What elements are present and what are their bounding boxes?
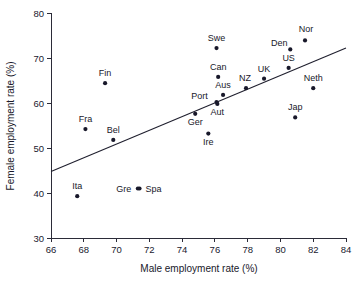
data-point: Aus	[215, 80, 231, 97]
data-point: Den	[271, 38, 292, 51]
point-label: Swe	[208, 33, 226, 43]
data-point: Fra	[79, 114, 93, 131]
point-marker	[75, 194, 79, 198]
point-marker	[111, 138, 115, 142]
y-tick-label: 60	[33, 98, 44, 109]
point-label: UK	[258, 64, 271, 74]
point-marker	[193, 112, 197, 116]
x-tick-label: 76	[210, 244, 221, 255]
point-label: Den	[271, 38, 288, 48]
data-point: Jap	[288, 102, 303, 119]
y-axis-title: Female employment rate (%)	[5, 62, 16, 191]
y-tick-label: 40	[33, 188, 44, 199]
point-marker	[103, 81, 107, 85]
x-axis-ticks: 66687072747678808284	[46, 238, 352, 255]
data-point: US	[282, 53, 295, 70]
point-marker	[244, 86, 248, 90]
y-axis-ticks: 304050607080	[33, 8, 51, 244]
data-point: NZ	[239, 73, 251, 90]
data-point: Can	[210, 62, 227, 79]
x-tick-label: 66	[46, 244, 57, 255]
point-marker	[293, 115, 297, 119]
data-point: Nor	[299, 24, 314, 42]
data-point: UK	[258, 64, 271, 81]
y-tick-label: 50	[33, 143, 44, 154]
point-label: US	[282, 53, 295, 63]
x-axis-title: Male employment rate (%)	[140, 263, 257, 274]
point-marker	[206, 132, 210, 136]
x-tick-label: 84	[341, 244, 352, 255]
point-label: Ger	[188, 117, 203, 127]
x-tick-label: 72	[144, 244, 155, 255]
data-point: Neth	[304, 73, 323, 90]
point-marker	[221, 93, 225, 97]
y-tick-label: 30	[33, 233, 44, 244]
point-marker	[311, 86, 315, 90]
data-point: Bel	[107, 125, 120, 142]
point-label: Aut	[211, 107, 225, 117]
data-point: Fin	[99, 68, 112, 85]
x-tick-label: 80	[275, 244, 286, 255]
point-marker	[303, 38, 307, 42]
chart-canvas: 304050607080 66687072747678808284 ItaFra…	[0, 0, 362, 282]
data-point: Port	[191, 91, 218, 104]
point-marker	[215, 102, 219, 106]
point-label: Bel	[107, 125, 120, 135]
point-marker	[83, 127, 87, 131]
point-marker	[214, 46, 218, 50]
data-point: Ger	[188, 112, 203, 127]
point-label: Ire	[203, 137, 214, 147]
point-label: Fra	[79, 114, 93, 124]
point-label: Neth	[304, 73, 323, 83]
data-point: Ire	[203, 132, 214, 147]
point-label: Aus	[215, 80, 231, 90]
point-label: Gre	[116, 184, 131, 194]
data-point: Gre	[116, 184, 140, 194]
point-label: Jap	[288, 102, 303, 112]
x-tick-label: 68	[78, 244, 89, 255]
x-tick-label: 74	[177, 244, 188, 255]
point-label: Can	[210, 62, 227, 72]
data-point: Swe	[208, 33, 226, 50]
point-label: Nor	[299, 24, 314, 34]
point-marker	[288, 47, 292, 51]
point-label: Ita	[72, 181, 82, 191]
y-tick-label: 80	[33, 8, 44, 19]
point-marker	[287, 66, 291, 70]
point-marker	[262, 77, 266, 81]
point-marker	[216, 75, 220, 79]
point-label: Spa	[145, 184, 161, 194]
x-tick-label: 82	[308, 244, 319, 255]
point-marker	[137, 186, 141, 190]
x-tick-label: 78	[242, 244, 253, 255]
x-tick-label: 70	[111, 244, 122, 255]
y-tick-label: 70	[33, 53, 44, 64]
data-points: ItaFraFinBelGreSpaGerIreSweCanPortAutAus…	[72, 24, 323, 198]
data-point: Ita	[72, 181, 82, 198]
data-point: Spa	[137, 184, 161, 194]
scatter-chart-figure: 304050607080 66687072747678808284 ItaFra…	[0, 0, 362, 282]
point-label: Fin	[99, 68, 112, 78]
point-label: Port	[191, 91, 208, 101]
point-label: NZ	[239, 73, 251, 83]
